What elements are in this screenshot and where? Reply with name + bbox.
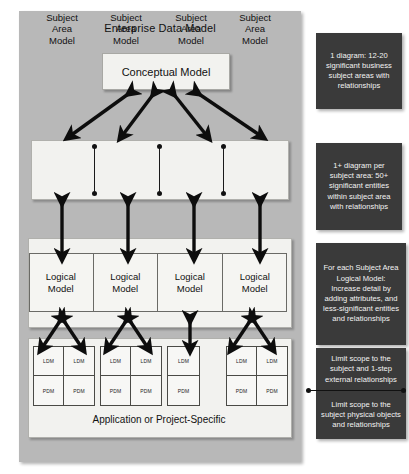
subject-area-line-3: Model	[113, 35, 139, 47]
subject-area-line-3: Model	[178, 35, 204, 47]
subject-area-connector	[157, 144, 162, 196]
model-cell: PDM	[34, 376, 64, 405]
subject-area-connector	[221, 144, 226, 196]
model-cell: PDM	[64, 376, 94, 405]
logical-model-box[interactable]: Logical Model	[223, 254, 288, 311]
conceptual-model-box[interactable]: Conceptual Model	[102, 53, 230, 90]
subject-area-line-1: Subject	[175, 12, 207, 24]
connector-dot	[92, 144, 97, 149]
connector-dot	[221, 144, 226, 149]
subject-area-line-2: Area	[116, 23, 136, 35]
model-group[interactable]: LDM LDM PDM PDM	[33, 346, 95, 406]
subject-area-line-1: Subject	[239, 12, 271, 24]
logical-model-line-1: Logical	[110, 271, 140, 283]
callout-box: 1+ diagram per subject area: 50+ signifi…	[316, 143, 402, 230]
subject-area-model-box[interactable]: Subject Area Model	[33, 0, 91, 58]
logical-model-box[interactable]: Logical Model	[158, 254, 223, 311]
model-cell: LDM	[64, 347, 94, 376]
model-cell: LDM	[131, 347, 161, 376]
model-cell: LDM	[227, 347, 257, 376]
model-cell: PDM	[101, 376, 131, 405]
subject-area-line-2: Area	[181, 23, 201, 35]
callout-box: For each Subject Area Logical Model: Inc…	[316, 243, 406, 345]
logical-model-line-2: Model	[177, 283, 203, 295]
connector-line	[223, 146, 224, 194]
model-group[interactable]: LDM LDM PDM PDM	[226, 346, 288, 406]
model-cell: PDM	[131, 376, 161, 405]
subject-area-line-1: Subject	[46, 12, 78, 24]
connector-dot	[306, 388, 311, 393]
conceptual-model-label: Conceptual Model	[122, 66, 211, 78]
model-cell: PDM	[257, 376, 287, 405]
logical-model-line-1: Logical	[46, 271, 76, 283]
connector-dot	[92, 191, 97, 196]
subject-area-model-box[interactable]: Subject Area Model	[97, 0, 155, 58]
callout-box: Limit scope to the subject and 1-step ex…	[316, 348, 406, 391]
model-group[interactable]: LDM PDM	[167, 346, 200, 406]
connector-dot	[157, 144, 162, 149]
model-cell: PDM	[168, 376, 199, 405]
logical-model-line-1: Logical	[240, 271, 270, 283]
model-cell: LDM	[168, 347, 199, 376]
connector-line	[308, 390, 404, 391]
model-cell: LDM	[101, 347, 131, 376]
logical-model-line-2: Model	[242, 283, 268, 295]
subject-area-line-1: Subject	[110, 12, 142, 24]
subject-area-line-3: Model	[49, 35, 75, 47]
subject-area-line-2: Area	[245, 23, 265, 35]
callout-box: 1 diagram: 12-20 significant business su…	[316, 33, 402, 109]
logical-model-box[interactable]: Logical Model	[29, 254, 94, 311]
model-cell: PDM	[227, 376, 257, 405]
logical-model-box[interactable]: Logical Model	[94, 254, 159, 311]
model-group[interactable]: LDM LDM PDM PDM	[100, 346, 162, 406]
subject-area-line-2: Area	[52, 23, 72, 35]
subject-area-line-3: Model	[242, 35, 268, 47]
logical-model-line-2: Model	[112, 283, 138, 295]
logical-model-line-1: Logical	[175, 271, 205, 283]
model-cell: LDM	[257, 347, 287, 376]
connector-line	[159, 146, 160, 194]
subject-area-connector	[92, 144, 97, 196]
callout-box: Limit scope to the subject physical obje…	[316, 391, 406, 439]
connector-dot	[157, 191, 162, 196]
subject-area-model-box[interactable]: Subject Area Model	[226, 0, 284, 58]
logical-model-line-2: Model	[48, 283, 74, 295]
subject-area-model-box[interactable]: Subject Area Model	[162, 0, 220, 58]
diagram-canvas: Enterprise Data Model Conceptual Model S…	[0, 0, 409, 474]
application-band-label: Application or Project-Specific	[28, 414, 290, 425]
callout-connector	[306, 388, 406, 393]
connector-line	[94, 146, 95, 194]
connector-dot	[221, 191, 226, 196]
connector-dot	[401, 388, 406, 393]
model-cell: LDM	[34, 347, 64, 376]
